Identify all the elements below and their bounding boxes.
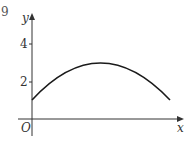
origin-label: O [21, 121, 31, 135]
y-tick-label-2: 2 [20, 75, 28, 89]
graph: 4 2 y x O [0, 0, 189, 141]
parabola-curve [32, 63, 170, 100]
y-tick-label-4: 4 [20, 37, 28, 51]
y-axis-arrow-icon [29, 13, 35, 20]
x-axis-label: x [177, 121, 184, 135]
y-axis-label: y [21, 11, 29, 25]
